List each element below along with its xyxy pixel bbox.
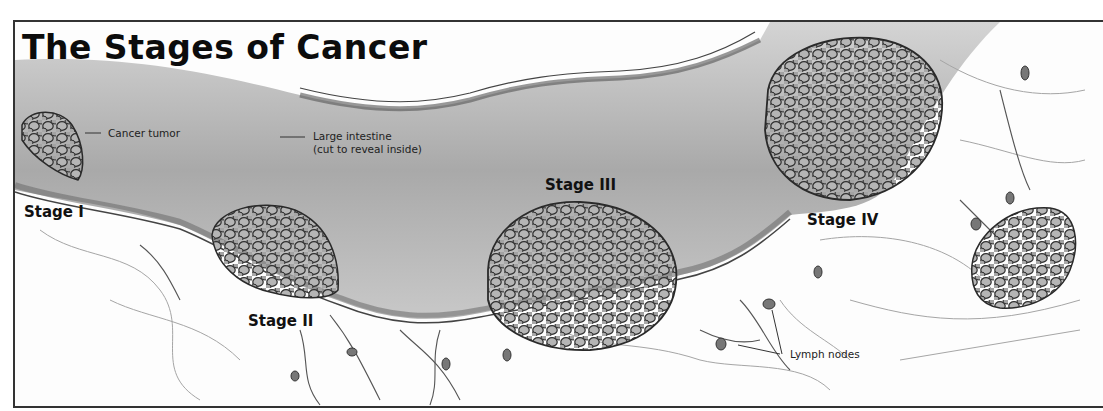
page-title: The Stages of Cancer bbox=[22, 28, 428, 67]
lymph-nodes-label: Lymph nodes bbox=[790, 348, 860, 361]
stage-1-label: Stage I bbox=[24, 203, 84, 221]
large-intestine-label-line2: (cut to reveal inside) bbox=[313, 143, 422, 156]
stage-2-label: Stage II bbox=[248, 312, 313, 330]
cancer-tumor-label: Cancer tumor bbox=[108, 127, 180, 140]
large-intestine-label: Large intestine (cut to reveal inside) bbox=[313, 130, 422, 156]
stage-4-label: Stage IV bbox=[807, 211, 878, 229]
large-intestine-label-line1: Large intestine bbox=[313, 130, 422, 143]
stage-3-label: Stage III bbox=[545, 176, 616, 194]
tumor-stage-3 bbox=[488, 202, 676, 350]
tumor-metastasis bbox=[972, 208, 1076, 308]
tumor-stage-4 bbox=[765, 38, 942, 200]
